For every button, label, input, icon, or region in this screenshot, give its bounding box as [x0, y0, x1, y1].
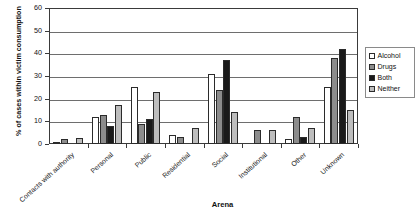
- bar-group: [242, 8, 281, 144]
- bar-group: [281, 8, 320, 144]
- bar-drugs: [100, 115, 107, 144]
- bar-drugs: [331, 58, 338, 144]
- x-axis-tick-mark: [165, 144, 166, 148]
- bar-neither: [76, 138, 83, 144]
- bar-neither: [347, 110, 354, 144]
- bar-drugs: [293, 117, 300, 144]
- x-axis-title: Arena: [0, 200, 419, 209]
- legend-swatch-both: [369, 75, 375, 81]
- legend-item: Both: [369, 72, 412, 83]
- y-axis-tick-label: 0: [22, 140, 42, 147]
- legend: AlcoholDrugsBothNeither: [365, 47, 415, 98]
- bar-both: [300, 137, 307, 144]
- bar-drugs: [216, 90, 223, 144]
- legend-item: Alcohol: [369, 50, 412, 61]
- bar-group: [319, 8, 358, 144]
- bar-group: [165, 8, 204, 144]
- bar-alcohol: [53, 142, 60, 144]
- bar-alcohol: [131, 87, 138, 144]
- y-axis-tick-label: 50: [22, 27, 42, 34]
- bar-group: [126, 8, 165, 144]
- x-axis-tick-mark: [126, 144, 127, 148]
- bar-alcohol: [324, 87, 331, 144]
- x-axis-tick-mark: [319, 144, 320, 148]
- bar-alcohol: [208, 74, 215, 144]
- bar-drugs: [254, 130, 261, 144]
- y-axis-tick-mark: [45, 144, 49, 145]
- bar-neither: [231, 112, 238, 144]
- bar-neither: [308, 128, 315, 144]
- bar-series-layer: [49, 8, 358, 144]
- y-axis-tick-label: 60: [22, 4, 42, 11]
- legend-item: Drugs: [369, 61, 412, 72]
- x-axis-tick-mark: [281, 144, 282, 148]
- x-axis-tick-mark: [242, 144, 243, 148]
- chart-container: % of cases within victim consumption 010…: [0, 0, 419, 223]
- x-axis-tick-mark: [88, 144, 89, 148]
- x-axis-tick-mark: [204, 144, 205, 148]
- legend-label: Alcohol: [378, 52, 401, 59]
- bar-both: [339, 49, 346, 144]
- bar-both: [146, 119, 153, 144]
- bar-neither: [153, 92, 160, 144]
- legend-swatch-drugs: [369, 64, 375, 70]
- bar-both: [223, 60, 230, 144]
- bar-neither: [269, 130, 276, 144]
- y-axis-tick-label: 30: [22, 72, 42, 79]
- bar-drugs: [138, 124, 145, 144]
- bar-group: [49, 8, 88, 144]
- bar-group: [88, 8, 127, 144]
- bar-both: [107, 126, 114, 144]
- legend-swatch-neither: [369, 86, 375, 92]
- bar-alcohol: [285, 139, 292, 144]
- bar-group: [204, 8, 243, 144]
- bar-alcohol: [92, 117, 99, 144]
- legend-label: Both: [378, 74, 392, 81]
- x-axis-tick-label: Contacts with authority: [0, 151, 75, 223]
- legend-swatch-alcohol: [369, 53, 375, 59]
- bar-alcohol: [169, 135, 176, 144]
- y-axis-tick-label: 10: [22, 117, 42, 124]
- legend-label: Neither: [378, 85, 401, 92]
- bar-neither: [192, 128, 199, 144]
- legend-item: Neither: [369, 83, 412, 94]
- bar-drugs: [177, 137, 184, 144]
- bar-drugs: [61, 139, 68, 144]
- x-axis-tick-mark: [358, 144, 359, 148]
- y-axis-tick-label: 20: [22, 95, 42, 102]
- legend-label: Drugs: [378, 63, 397, 70]
- bar-neither: [115, 105, 122, 144]
- y-axis-tick-label: 40: [22, 49, 42, 56]
